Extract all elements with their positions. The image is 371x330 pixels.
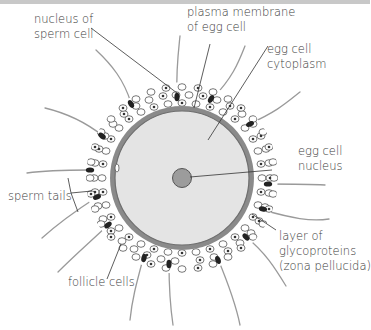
label-egg-nucleus: egg cell nucleus (298, 144, 342, 174)
egg-nucleus (173, 169, 192, 188)
label-nucleus-of-sperm: nucleus of sperm cell (34, 12, 94, 42)
label-plasma-membrane: plasma membrane of egg cell (187, 5, 295, 35)
label-line: of egg cell (187, 20, 295, 35)
label-line: nucleus (298, 159, 342, 174)
label-line: (zona pellucida) (279, 259, 371, 274)
label-sperm-tails: sperm tails (8, 189, 72, 204)
label-follicle-cells: follicle cells (68, 275, 135, 290)
label-line: glycoproteins (279, 244, 371, 259)
label-line: cytoplasm (267, 57, 326, 72)
label-zona-pellucida: layer of glycoproteins (zona pellucida) (279, 229, 371, 274)
label-egg-cytoplasm: egg cell cytoplasm (267, 42, 326, 72)
label-line: nucleus of (34, 12, 94, 27)
label-line: sperm tails (8, 189, 72, 204)
label-line: egg cell (298, 144, 342, 159)
label-line: layer of (279, 229, 371, 244)
label-line: plasma membrane (187, 5, 295, 20)
label-line: sperm cell (34, 27, 94, 42)
label-line: egg cell (267, 42, 326, 57)
label-line: follicle cells (68, 275, 135, 290)
